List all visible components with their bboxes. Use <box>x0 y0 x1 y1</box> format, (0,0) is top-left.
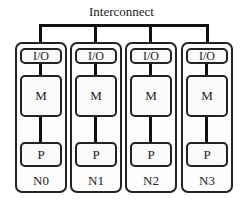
node-label: N1 <box>72 173 120 189</box>
io-box: I/O <box>75 48 117 64</box>
memory-processor-link <box>39 117 42 142</box>
io-box: I/O <box>20 48 62 64</box>
memory-box: M <box>20 75 62 117</box>
processor-box: P <box>75 142 117 167</box>
processor-box: P <box>130 142 172 167</box>
node-label: N2 <box>127 173 175 189</box>
node-label: N3 <box>183 173 231 189</box>
memory-box: M <box>186 75 228 117</box>
interconnect-bus <box>39 24 209 27</box>
node-n1: I/O M P N1 <box>70 42 122 193</box>
memory-processor-link <box>94 117 97 142</box>
processor-box: P <box>20 142 62 167</box>
memory-processor-link <box>149 117 152 142</box>
node-label: N0 <box>17 173 65 189</box>
io-box: I/O <box>186 48 228 64</box>
memory-box: M <box>75 75 117 117</box>
io-box: I/O <box>130 48 172 64</box>
io-memory-link <box>39 64 42 75</box>
memory-processor-link <box>205 117 208 142</box>
interconnect-label: Interconnect <box>0 4 243 20</box>
node-n3: I/O M P N3 <box>181 42 233 193</box>
node-n0: I/O M P N0 <box>15 42 67 193</box>
node-n2: I/O M P N2 <box>125 42 177 193</box>
processor-box: P <box>186 142 228 167</box>
io-memory-link <box>149 64 152 75</box>
io-memory-link <box>94 64 97 75</box>
io-memory-link <box>205 64 208 75</box>
memory-box: M <box>130 75 172 117</box>
